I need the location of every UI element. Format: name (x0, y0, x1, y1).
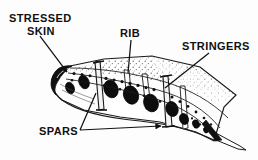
label-stressed-skin-line2: SKIN (27, 25, 55, 37)
wing-tip-trailing-edge (214, 132, 246, 150)
lightening-hole (121, 84, 141, 107)
rear-spar-cap-lower (162, 126, 175, 127)
label-rib: RIB (120, 27, 140, 39)
lightening-hole (178, 112, 190, 126)
stressed-skin-leader (40, 36, 67, 72)
wing-diagram-svg: STRESSED SKIN RIB STRINGERS SPARS (0, 0, 258, 160)
label-stressed-skin-line1: STRESSED (9, 12, 72, 24)
wing-body (51, 56, 246, 150)
label-spars: SPARS (39, 125, 78, 137)
wing-structure-figure: STRESSED SKIN RIB STRINGERS SPARS (0, 0, 258, 160)
spars-leader-rear (80, 126, 161, 130)
label-stringers: STRINGERS (182, 40, 250, 52)
